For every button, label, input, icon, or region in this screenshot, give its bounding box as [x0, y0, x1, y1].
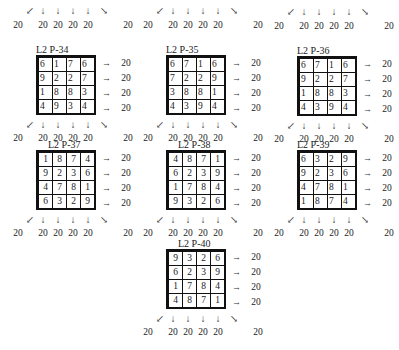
grid-cell: 1	[80, 180, 95, 195]
p36-bottom-diag-left-sum: 20	[269, 134, 289, 144]
p35-row-arrow-icon: →	[232, 103, 241, 113]
grid-cell: 7	[66, 152, 81, 167]
p35-row-sum: 20	[246, 73, 266, 83]
grid-cell: 2	[52, 71, 67, 86]
grid-cell: 3	[80, 85, 95, 100]
grid-cell: 4	[80, 152, 95, 167]
p34-top-diag-right-sum: 20	[118, 20, 138, 30]
p36-row-arrow-icon: →	[363, 104, 372, 114]
p36-bottom-diag-right-sum: 20	[379, 134, 399, 144]
p37-row-sum: 20	[116, 153, 136, 163]
grid-cell: 9	[299, 72, 314, 87]
p34-top-diag-right-arrow-icon: ↘	[98, 6, 110, 16]
p35-row-sum: 20	[246, 88, 266, 98]
p36-title: L2 P-36	[297, 45, 330, 56]
p36-top-down-arrow-icon: ↓	[313, 7, 325, 17]
grid-cell: 3	[196, 166, 211, 181]
p40-bottom-down-arrow-icon: ↓	[212, 314, 224, 324]
grid-cell: 7	[182, 279, 197, 294]
p35-bottom-down-arrow-icon: ↓	[182, 120, 194, 130]
grid-cell: 2	[196, 251, 211, 266]
grid-cell: 1	[327, 58, 342, 73]
p39-bottom-diag-right-arrow-icon: ↘	[359, 215, 371, 225]
p36-row-arrow-icon: →	[363, 89, 372, 99]
p34-row-arrow-icon: →	[102, 58, 111, 68]
p40-row-arrow-icon: →	[232, 267, 241, 277]
p39-bottom-diag-left-sum: 20	[269, 228, 289, 238]
grid-cell: 3	[52, 194, 67, 209]
grid-cell: 9	[196, 99, 211, 114]
p37-row-arrow-icon: →	[102, 198, 111, 208]
p36-row-sum: 20	[377, 104, 397, 114]
p37-bottom-down-arrow-icon: ↓	[52, 215, 64, 225]
grid-cell: 1	[299, 194, 314, 209]
p34-bottom-down-arrow-icon: ↓	[52, 120, 64, 130]
p36-top-down-arrow-icon: ↓	[298, 7, 310, 17]
p37-bottom-diag-left-arrow-icon: ↙	[24, 215, 36, 225]
p34-bottom-diag-left-arrow-icon: ↙	[24, 120, 36, 130]
grid-cell: 7	[196, 293, 211, 308]
grid-cell: 9	[299, 166, 314, 181]
p38-row-arrow-icon: →	[232, 198, 241, 208]
grid-cell: 4	[38, 99, 53, 114]
grid-cell: 3	[66, 99, 81, 114]
grid-cell: 4	[210, 180, 225, 195]
p40-row-arrow-icon: →	[232, 297, 241, 307]
grid-cell: 4	[168, 152, 183, 167]
grid-cell: 6	[168, 265, 183, 280]
grid-cell: 8	[182, 293, 197, 308]
p40-row-arrow-icon: →	[232, 282, 241, 292]
p39-row-arrow-icon: →	[363, 153, 372, 163]
p39-row-arrow-icon: →	[363, 198, 372, 208]
p37-row-arrow-icon: →	[102, 153, 111, 163]
p34-top-diag-left-arrow-icon: ↙	[24, 6, 36, 16]
p35-bottom-diag-left-sum: 20	[138, 133, 158, 143]
p39-grid: 6329923647811874	[297, 150, 357, 210]
grid-cell: 2	[196, 71, 211, 86]
p34-row-sum: 20	[116, 58, 136, 68]
p38-bottom-diag-right-arrow-icon: ↘	[228, 215, 240, 225]
grid-cell: 1	[210, 152, 225, 167]
p40-bottom-diag-left-arrow-icon: ↙	[154, 314, 166, 324]
grid-cell: 4	[299, 180, 314, 195]
p39-row-arrow-icon: →	[363, 168, 372, 178]
p34-top-down-arrow-icon: ↓	[82, 6, 94, 16]
p37-row-sum: 20	[116, 183, 136, 193]
grid-cell: 9	[210, 265, 225, 280]
p34-title: L2 P-34	[36, 44, 69, 55]
p35-bottom-column-sum: 20	[208, 133, 228, 143]
p39-bottom-diag-right-sum: 20	[379, 228, 399, 238]
p34-top-diag-left-sum: 20	[8, 20, 28, 30]
p38-bottom-down-arrow-icon: ↓	[212, 215, 224, 225]
p35-title: L2 P-35	[166, 44, 199, 55]
p35-row-arrow-icon: →	[232, 58, 241, 68]
p34-row-sum: 20	[116, 73, 136, 83]
p34-bottom-down-arrow-icon: ↓	[67, 120, 79, 130]
p38-row-arrow-icon: →	[232, 168, 241, 178]
p34-bottom-diag-left-sum: 20	[8, 133, 28, 143]
p34-row-arrow-icon: →	[102, 88, 111, 98]
p37-row-arrow-icon: →	[102, 183, 111, 193]
grid-cell: 4	[168, 293, 183, 308]
grid-cell: 2	[313, 166, 328, 181]
grid-cell: 9	[168, 194, 183, 209]
p40-row-sum: 20	[246, 297, 266, 307]
grid-cell: 6	[80, 166, 95, 181]
p40-title: L2 P-40	[178, 238, 211, 249]
grid-cell: 6	[210, 194, 225, 209]
p37-bottom-column-sum: 20	[78, 228, 98, 238]
grid-cell: 6	[299, 152, 314, 167]
grid-cell: 4	[210, 99, 225, 114]
p38-row-sum: 20	[246, 198, 266, 208]
p38-bottom-column-sum: 20	[208, 228, 228, 238]
p39-bottom-diag-left-arrow-icon: ↙	[285, 215, 297, 225]
p35-row-arrow-icon: →	[232, 73, 241, 83]
p38-row-arrow-icon: →	[232, 183, 241, 193]
p35-top-down-arrow-icon: ↓	[167, 6, 179, 16]
grid-cell: 4	[299, 100, 314, 115]
p39-row-sum: 20	[377, 183, 397, 193]
grid-cell: 7	[341, 72, 356, 87]
p37-grid: 1874923647816329	[36, 150, 96, 210]
grid-cell: 9	[327, 100, 342, 115]
p34-bottom-diag-right-sum: 20	[118, 133, 138, 143]
